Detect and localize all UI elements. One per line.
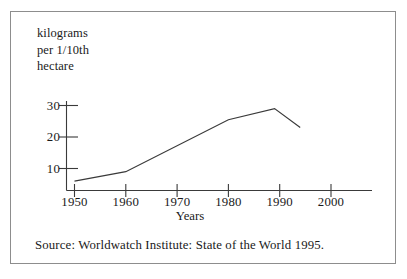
source-caption: Source: Worldwatch Institute: State of t… [35,238,324,253]
x-tick-label-1980: 1980 [206,195,250,209]
y-tick-label-20: 20 [30,130,60,144]
x-tick-label-1950: 1950 [53,195,97,209]
x-tick-label-1970: 1970 [155,195,199,209]
y-tick-label-10: 10 [30,162,60,176]
x-tick-label-1990: 1990 [258,195,302,209]
x-tick-label-1960: 1960 [104,195,148,209]
figure-container: kilogramsper 1/10thhectare 30 20 10 1950… [0,0,407,279]
data-series-line [75,109,301,181]
y-tick-label-30: 30 [30,99,60,113]
x-tick-label-2000: 2000 [309,195,353,209]
x-axis-title: Years [155,209,225,224]
